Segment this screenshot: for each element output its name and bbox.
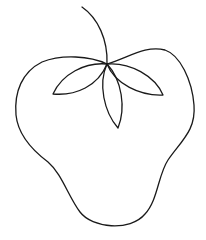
leaf-left bbox=[53, 64, 107, 94]
strawberry-icon bbox=[0, 0, 206, 240]
stem bbox=[82, 7, 107, 64]
strawberry-illustration: strawberry line drawing bbox=[0, 0, 206, 240]
body-outline bbox=[16, 49, 194, 226]
leaf-right bbox=[107, 64, 163, 95]
